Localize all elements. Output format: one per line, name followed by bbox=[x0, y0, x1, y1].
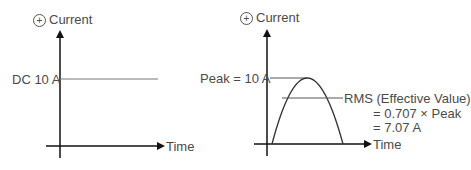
left-y-axis-label: +Current bbox=[33, 13, 92, 27]
rms-formula: = 0.707 × Peak bbox=[373, 107, 461, 120]
right-y-axis-label: +Current bbox=[240, 11, 299, 25]
rms-value: = 7.07 A bbox=[373, 121, 421, 134]
dc-level-label: DC 10 A bbox=[12, 73, 60, 86]
left-x-axis-label: Time bbox=[166, 140, 194, 153]
rms-label: RMS (Effective Value) bbox=[344, 92, 471, 105]
plus-icon: + bbox=[33, 14, 46, 27]
right-x-axis-label: Time bbox=[373, 138, 401, 151]
peak-label: Peak = 10 A bbox=[200, 72, 270, 85]
plus-icon: + bbox=[240, 12, 253, 25]
half-wave-curve bbox=[272, 78, 343, 144]
